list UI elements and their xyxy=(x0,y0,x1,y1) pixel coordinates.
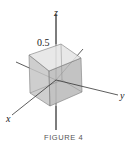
figure-caption: FIGURE 4 xyxy=(44,133,83,142)
edge-length-label: 0.5 xyxy=(37,37,50,48)
y-axis-label: y xyxy=(119,90,125,101)
cube-diagram: z y x 0.5 FIGURE 4 xyxy=(0,0,134,149)
z-axis-label: z xyxy=(53,7,58,18)
x-axis-label: x xyxy=(5,113,11,124)
